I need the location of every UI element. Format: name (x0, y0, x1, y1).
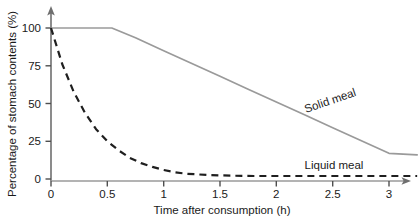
x-tick-label-1: 1 (160, 188, 166, 200)
x-tick-marks (51, 181, 389, 187)
y-tick-marks (46, 28, 52, 179)
x-tick-labels: 0 0.5 1 1.5 2 2.5 3 (48, 188, 392, 200)
x-tick-label-3: 3 (386, 188, 392, 200)
series-label-liquid-meal: Liquid meal (305, 159, 364, 171)
x-tick-label-0p5: 0.5 (99, 188, 115, 200)
y-tick-label-75: 75 (28, 60, 41, 72)
x-tick-label-2p5: 2.5 (325, 188, 341, 200)
x-tick-label-2: 2 (273, 188, 279, 200)
y-tick-labels: 100 75 50 25 0 (22, 22, 41, 185)
y-tick-label-0: 0 (35, 173, 41, 185)
chart-figure: 100 75 50 25 0 0 0.5 1 1.5 2 2.5 3 Time … (0, 0, 420, 220)
series-line-solid-meal (51, 28, 417, 155)
gastric-emptying-line-chart: 100 75 50 25 0 0 0.5 1 1.5 2 2.5 3 Time … (0, 0, 420, 220)
series-label-solid-meal: Solid meal (303, 86, 358, 115)
y-tick-label-100: 100 (22, 22, 41, 34)
x-tick-label-0: 0 (48, 188, 54, 200)
x-tick-label-1p5: 1.5 (212, 188, 228, 200)
y-tick-label-25: 25 (28, 135, 41, 147)
y-tick-label-50: 50 (28, 98, 41, 110)
series-line-liquid-meal (51, 28, 417, 176)
x-axis-title: Time after consumption (h) (154, 204, 291, 216)
y-axis-title: Percentage of stomach contents (%) (6, 11, 18, 197)
